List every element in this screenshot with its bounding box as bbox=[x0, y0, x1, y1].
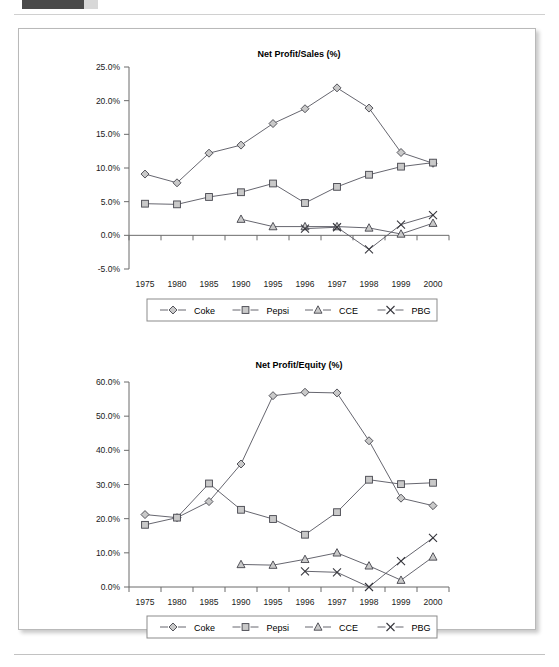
data-point-square bbox=[366, 171, 373, 178]
data-point-square bbox=[366, 476, 373, 483]
x-tick-label: 1998 bbox=[360, 597, 379, 607]
y-tick-label: 15.0% bbox=[96, 129, 121, 139]
header-divider bbox=[14, 14, 545, 15]
data-point-cross bbox=[397, 557, 405, 565]
data-point-diamond bbox=[141, 170, 149, 178]
data-point-square bbox=[430, 159, 437, 166]
x-tick-label: 1997 bbox=[328, 279, 347, 289]
data-point-square bbox=[430, 479, 437, 486]
data-point-square bbox=[398, 163, 405, 170]
data-point-diamond bbox=[141, 511, 149, 519]
legend-marker-square bbox=[242, 624, 249, 631]
data-point-square bbox=[238, 506, 245, 513]
data-point-triangle bbox=[429, 219, 437, 226]
x-tick-label: 1990 bbox=[232, 279, 251, 289]
data-point-square bbox=[206, 480, 213, 487]
data-point-square bbox=[334, 509, 341, 516]
x-tick-label: 1975 bbox=[136, 279, 155, 289]
y-tick-label: 0.0% bbox=[101, 230, 121, 240]
document-page: Net Profit/Sales (%)25.0%20.0%15.0%10.0%… bbox=[18, 28, 536, 630]
data-point-square bbox=[270, 180, 277, 187]
series-pepsi bbox=[142, 159, 437, 208]
data-point-diamond bbox=[301, 105, 309, 113]
data-point-triangle bbox=[237, 215, 245, 222]
data-point-triangle bbox=[429, 553, 437, 560]
x-tick-label: 1995 bbox=[264, 597, 283, 607]
data-point-square bbox=[142, 521, 149, 528]
legend-label-coke: Coke bbox=[194, 306, 215, 316]
legend-label-coke: Coke bbox=[194, 623, 215, 633]
y-tick-label: 20.0% bbox=[96, 96, 121, 106]
y-tick-label: 40.0% bbox=[96, 445, 121, 455]
data-point-square bbox=[398, 481, 405, 488]
series-pepsi bbox=[142, 476, 437, 538]
data-point-square bbox=[302, 531, 309, 538]
chart-svg: Net Profit/Sales (%)25.0%20.0%15.0%10.0%… bbox=[19, 37, 535, 337]
data-point-diamond bbox=[237, 141, 245, 149]
series-coke bbox=[141, 388, 437, 521]
x-tick-label: 2000 bbox=[424, 279, 443, 289]
x-tick-label: 2000 bbox=[424, 597, 443, 607]
y-tick-label: 10.0% bbox=[96, 548, 121, 558]
data-point-diamond bbox=[333, 84, 341, 92]
x-tick-label: 1995 bbox=[264, 279, 283, 289]
data-point-square bbox=[174, 201, 181, 208]
header-tab-bar bbox=[22, 0, 84, 9]
data-point-square bbox=[270, 516, 277, 523]
data-point-square bbox=[206, 194, 213, 201]
data-point-diamond bbox=[365, 437, 373, 445]
data-point-square bbox=[238, 189, 245, 196]
y-tick-label: 0.0% bbox=[101, 582, 121, 592]
data-point-diamond bbox=[397, 494, 405, 502]
data-point-cross bbox=[429, 534, 437, 542]
x-tick-label: 1975 bbox=[136, 597, 155, 607]
data-point-triangle bbox=[365, 562, 373, 569]
header-tab-tail bbox=[84, 0, 98, 9]
x-tick-label: 1996 bbox=[296, 279, 315, 289]
x-tick-label: 1990 bbox=[232, 597, 251, 607]
x-tick-label: 1985 bbox=[200, 597, 219, 607]
legend-label-cce: CCE bbox=[339, 306, 358, 316]
x-tick-label: 1997 bbox=[328, 597, 347, 607]
data-point-cross bbox=[365, 245, 373, 253]
data-point-triangle bbox=[333, 549, 341, 556]
series-cce bbox=[237, 549, 437, 584]
y-tick-label: 50.0% bbox=[96, 411, 121, 421]
data-point-triangle bbox=[397, 576, 405, 583]
chart-net-profit-sales: Net Profit/Sales (%)25.0%20.0%15.0%10.0%… bbox=[19, 37, 535, 337]
legend-label-pbg: PBG bbox=[412, 306, 431, 316]
data-point-diamond bbox=[269, 392, 277, 400]
legend-label-pepsi: Pepsi bbox=[267, 623, 290, 633]
data-point-diamond bbox=[301, 388, 309, 396]
chart-title: Net Profit/Equity (%) bbox=[256, 360, 343, 370]
x-tick-label: 1999 bbox=[392, 279, 411, 289]
x-tick-label: 1996 bbox=[296, 597, 315, 607]
data-point-diamond bbox=[269, 120, 277, 128]
legend-label-pepsi: Pepsi bbox=[267, 306, 290, 316]
y-tick-label: 25.0% bbox=[96, 62, 121, 72]
series-coke bbox=[141, 84, 437, 187]
y-tick-label: 60.0% bbox=[96, 377, 121, 387]
chart-title: Net Profit/Sales (%) bbox=[257, 49, 340, 59]
page-root: Net Profit/Sales (%)25.0%20.0%15.0%10.0%… bbox=[0, 0, 559, 667]
x-tick-label: 1980 bbox=[168, 597, 187, 607]
legend-label-pbg: PBG bbox=[412, 623, 431, 633]
data-point-diamond bbox=[429, 502, 437, 510]
data-point-triangle bbox=[237, 560, 245, 567]
y-tick-label: 20.0% bbox=[96, 514, 121, 524]
y-tick-label: 30.0% bbox=[96, 480, 121, 490]
data-point-square bbox=[142, 200, 149, 207]
data-point-square bbox=[302, 200, 309, 207]
x-tick-label: 1980 bbox=[168, 279, 187, 289]
series-pbg bbox=[301, 211, 437, 253]
footer-divider bbox=[14, 654, 545, 655]
y-tick-label: 5.0% bbox=[101, 197, 121, 207]
legend-marker-square bbox=[242, 307, 249, 314]
data-point-diamond bbox=[333, 389, 341, 397]
chart-net-profit-equity: Net Profit/Equity (%)60.0%50.0%40.0%30.0… bbox=[19, 344, 535, 624]
x-tick-label: 1999 bbox=[392, 597, 411, 607]
legend-label-cce: CCE bbox=[339, 623, 358, 633]
series-cce bbox=[237, 215, 437, 237]
chart-legend: CokePepsiCCEPBG bbox=[147, 299, 437, 321]
x-tick-label: 1998 bbox=[360, 279, 379, 289]
